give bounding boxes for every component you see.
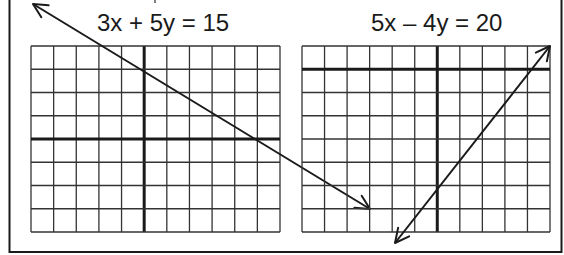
left-graph xyxy=(31,4,370,232)
frame xyxy=(10,0,562,252)
left-equation-label: 3x + 5y = 15 xyxy=(97,11,229,35)
right-graph xyxy=(302,46,550,243)
grid xyxy=(31,46,280,232)
arrow-head-icon xyxy=(354,196,370,209)
frame-border xyxy=(10,0,562,252)
equation-line xyxy=(395,46,550,243)
graph-canvas xyxy=(0,0,564,255)
arrow-head-icon xyxy=(33,4,49,17)
right-equation-label: 5x – 4y = 20 xyxy=(371,11,502,35)
